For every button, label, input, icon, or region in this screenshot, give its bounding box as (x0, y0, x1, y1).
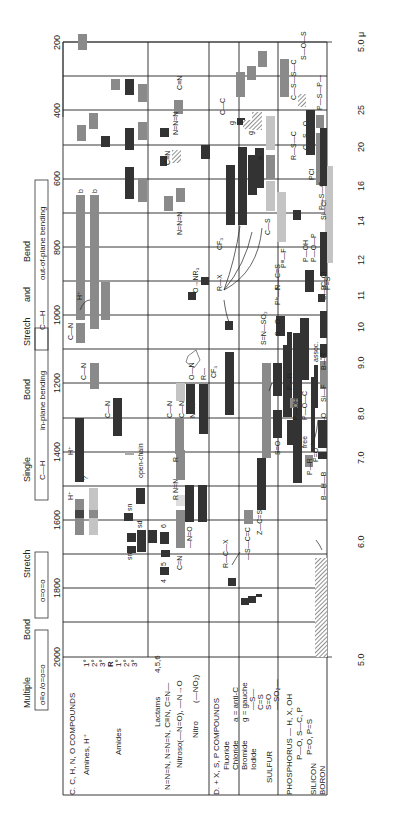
svg-text:PHOSPHORUS — H, X, OH: PHOSPHORUS — H, X, OH (285, 693, 294, 795)
svg-text:C≡N: C≡N (164, 151, 171, 165)
svg-text:a = anti-C: a = anti-C (231, 687, 240, 722)
svg-text:R—S—C: R—S—C (290, 131, 297, 160)
svg-text:Pᴵᵛ—F: Pᴵᵛ—F (274, 286, 281, 305)
svg-text:P—O—P: P—O—P (310, 233, 317, 262)
svg-text:sd: sd (136, 521, 143, 529)
svg-text:C—N: C—N (67, 323, 74, 340)
wavenumber-axis: 200 400 600 800 1000 1200 1400 1600 1800… (52, 35, 62, 667)
svg-text:o=o=o: o=o=o (38, 579, 47, 602)
ir-correlation-chart: 200 400 600 800 1000 1200 1400 1600 1800… (0, 0, 414, 840)
svg-text:4,5,6: 4,5,6 (153, 655, 162, 673)
svg-text:Multiple: Multiple (22, 677, 32, 708)
svg-text:O→NR₃: O→NR₃ (192, 267, 199, 293)
svg-text:200: 200 (52, 35, 62, 50)
svg-text:N=N=N, N=N=N, C≡N, C=N—: N=N=N, N=N=N, C≡N, C=N— (163, 683, 172, 790)
svg-text:Bond: Bond (22, 379, 32, 400)
svg-text:5.0: 5.0 (356, 653, 366, 666)
svg-text:4: 4 (160, 579, 167, 583)
svg-text:H⁺: H⁺ (76, 291, 83, 300)
svg-text:C—N: C—N (80, 363, 87, 380)
svg-text:Amides: Amides (114, 728, 123, 755)
svg-text:R—X: R—X (216, 274, 223, 291)
svg-text:free: free (301, 436, 308, 448)
svg-text:1600: 1600 (52, 510, 62, 530)
svg-text:Bromide: Bromide (240, 740, 249, 770)
svg-text:C. C, H, N, O COMPOUNDS: C. C, H, N, O COMPOUNDS (68, 693, 77, 795)
svg-text:—S—C=C: —S—C=C (244, 527, 251, 560)
svg-text:b: b (91, 189, 98, 193)
chart-canvas: 200 400 600 800 1000 1200 1400 1600 1800… (0, 0, 414, 840)
svg-text:BORON: BORON (318, 765, 327, 795)
svg-text:Bond: Bond (22, 619, 32, 640)
svg-text:N=N=N: N=N=N (176, 212, 183, 235)
svg-text:—N=O: —N=O (186, 526, 193, 548)
svg-text:H⁺: H⁺ (67, 446, 74, 455)
svg-text:12: 12 (356, 255, 366, 265)
svg-text:in-plane bending: in-plane bending (38, 371, 47, 430)
svg-text:P—O—C: P—O—C (301, 391, 308, 420)
svg-text:PCl: PCl (308, 168, 315, 180)
svg-text:Nitroso(—N=O), —N→O: Nitroso(—N=O), —N→O (175, 680, 184, 768)
svg-text:R—C—X: R—C—X (222, 539, 229, 568)
svg-text:C—H: C—H (38, 460, 47, 480)
svg-text:out-of-plane bending: out-of-plane bending (38, 207, 47, 280)
svg-text:Z—C=S: Z—C=S (256, 510, 263, 535)
svg-text:800: 800 (52, 240, 62, 255)
svg-text:P—OH: P—OH (292, 398, 299, 420)
svg-text:?: ? (82, 476, 89, 480)
svg-text:g: g (228, 121, 236, 125)
svg-text:R N=N: R N=N (172, 479, 179, 500)
svg-text:Iodide: Iodide (249, 748, 258, 770)
svg-text:5.0 μ: 5.0 μ (356, 32, 366, 52)
svg-text:P—H: P—H (286, 373, 293, 390)
svg-text:C—N: C—N (178, 401, 185, 418)
svg-text:Si—Cl: Si—Cl (320, 200, 327, 220)
svg-text:20: 20 (356, 142, 366, 152)
svg-text:CF₃: CF₃ (216, 238, 223, 250)
svg-text:H⁺: H⁺ (67, 491, 74, 500)
svg-text:R: R (172, 457, 179, 462)
svg-text:Stretch: Stretch (22, 549, 32, 578)
svg-text:P=O, P=S: P=O, P=S (305, 719, 314, 755)
svg-text:400: 400 (52, 103, 62, 118)
svg-text:9.0: 9.0 (356, 356, 366, 369)
svg-text:25: 25 (356, 105, 366, 115)
absorption-bars: b b C—N H⁺ C—N C—N H⁺ H⁺ ? open-chain sn… (67, 31, 333, 605)
svg-text:S=N—SO₂: S=N—SO₂ (260, 311, 267, 345)
svg-text:1400: 1400 (52, 442, 62, 462)
svg-text:C≡N: C≡N (176, 76, 183, 90)
svg-text:1200: 1200 (52, 373, 62, 393)
svg-text:C—C: C—C (219, 98, 226, 115)
svg-text:C—S: C—S (264, 218, 271, 235)
svg-text:open-chain: open-chain (137, 443, 145, 478)
svg-text:Stretch: Stretch (22, 317, 32, 346)
svg-text:and: and (22, 287, 32, 302)
svg-text:S→O: S→O (274, 318, 281, 336)
svg-text:Chloride: Chloride (231, 740, 240, 770)
svg-text:SILICON: SILICON (309, 763, 318, 795)
svg-text:a: a (256, 156, 263, 160)
svg-text:Amines, H⁺: Amines, H⁺ (82, 734, 91, 775)
svg-text:sn: sn (126, 504, 133, 512)
svg-text:8.0: 8.0 (356, 407, 366, 420)
svg-text:C—H: C—H (38, 310, 47, 330)
svg-text:C=N: C=N (176, 556, 183, 570)
svg-text:P—OH: P—OH (302, 240, 309, 262)
svg-text:R—: R— (200, 368, 207, 380)
header-legend: Multiple Bond Stretch o≡o /o=o=o o=o=o S… (22, 180, 48, 710)
svg-text:16: 16 (356, 181, 366, 191)
svg-text:O—N: O—N (188, 363, 195, 381)
svg-text:11: 11 (356, 291, 366, 300)
svg-text:1000: 1000 (52, 305, 62, 325)
svg-text:2000: 2000 (52, 647, 62, 667)
svg-text:6: 6 (160, 524, 167, 528)
svg-text:C—N: C—N (104, 401, 111, 418)
svg-text:CF₃: CF₃ (210, 366, 217, 378)
svg-text:N=N=N: N=N=N (172, 112, 179, 135)
wavelength-axis: 5.0 μ 25 20 16 14 12 11 10 9.0 8.0 7.0 6… (327, 32, 366, 666)
svg-text:3°: 3° (130, 659, 139, 667)
svg-text:600: 600 (52, 171, 62, 186)
svg-text:C—S—S—C: C—S—S—C (290, 60, 297, 100)
svg-text:Fluoride: Fluoride (222, 741, 231, 770)
svg-text:P—O, S—C, P: P—O, S—C, P (295, 707, 304, 760)
